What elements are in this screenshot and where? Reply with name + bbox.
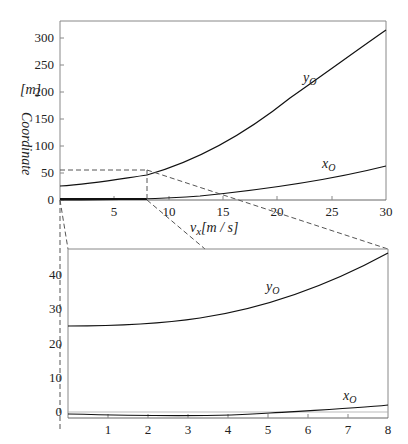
bot-xtick: 2 — [145, 422, 152, 437]
label-yO-bottom: yO — [264, 279, 279, 296]
curve-yO-bottom — [68, 253, 388, 326]
top-xtick: 15 — [217, 204, 230, 219]
top-xtick: 5 — [111, 204, 118, 219]
bot-ytick: 20 — [49, 336, 62, 351]
top-ytick: 250 — [35, 57, 55, 72]
curve-yO-top — [60, 30, 386, 186]
bot-xtick: 6 — [305, 422, 312, 437]
top-ytick: 300 — [35, 30, 55, 45]
top-xtick: 30 — [380, 204, 393, 219]
y-unit-label: [m] — [20, 82, 41, 97]
y-axis-title: Coordinate — [19, 112, 34, 175]
top-chart: 0 50 100 150 200 250 300 5 10 15 20 25 3… — [19, 21, 393, 430]
bot-ytick: 40 — [49, 267, 62, 282]
label-yO-top: yO — [301, 70, 316, 87]
x-axis-title: vx[m / s] — [190, 220, 238, 237]
label-xO-bottom: xO — [342, 388, 356, 405]
top-ytick: 50 — [41, 165, 54, 180]
bot-xtick: 4 — [225, 422, 232, 437]
top-ytick: 150 — [35, 111, 55, 126]
bot-xtick: 1 — [105, 422, 112, 437]
bot-ytick: 30 — [49, 301, 62, 316]
bot-ytick: 10 — [49, 370, 62, 385]
top-xtick: 10 — [163, 204, 176, 219]
bot-xtick: 8 — [385, 422, 392, 437]
bot-xtick: 7 — [345, 422, 352, 437]
bottom-chart: 0 10 20 30 40 1 2 3 4 5 6 7 8 yO xO — [49, 249, 391, 437]
top-ytick: 100 — [35, 138, 55, 153]
chart-figure: 0 50 100 150 200 250 300 5 10 15 20 25 3… — [0, 0, 408, 444]
label-xO-top: xO — [321, 156, 335, 173]
bot-xtick: 5 — [265, 422, 272, 437]
bot-xtick: 3 — [185, 422, 192, 437]
top-ytick: 0 — [48, 192, 55, 207]
bot-ytick: 0 — [56, 404, 63, 419]
curve-xO-top — [60, 166, 386, 200]
top-xtick: 25 — [326, 204, 339, 219]
